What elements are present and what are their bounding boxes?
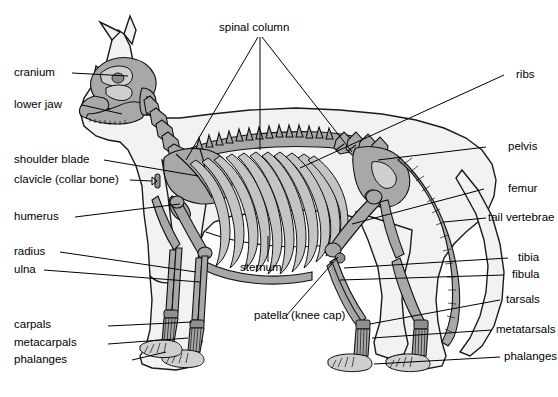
label-clavicle: clavicle (collar bone) [14, 174, 119, 186]
label-lower-jaw: lower jaw [14, 99, 62, 111]
label-metatarsals: metatarsals [496, 324, 555, 336]
skeleton-illustration [0, 0, 558, 397]
label-sternum: sternum [240, 262, 282, 274]
label-ulna: ulna [14, 264, 36, 276]
label-pelvis: pelvis [508, 141, 537, 153]
label-tibia: tibia [518, 252, 539, 264]
label-ribs: ribs [516, 69, 535, 81]
label-metacarpals: metacarpals [14, 337, 77, 349]
label-phalanges-hind: phalanges [504, 351, 557, 363]
cat-skeleton-diagram: spinal column cranium lower jaw shoulder… [0, 0, 558, 397]
label-fibula: fibula [512, 269, 540, 281]
label-radius: radius [14, 246, 45, 258]
label-cranium: cranium [14, 67, 55, 79]
label-patella: patella (knee cap) [254, 310, 345, 322]
label-humerus: humerus [14, 211, 59, 223]
label-spinal-column: spinal column [219, 22, 289, 34]
label-tail-vertebrae: tail vertebrae [488, 212, 554, 224]
label-phalanges-front: phalanges [14, 354, 67, 366]
label-femur: femur [508, 183, 537, 195]
label-tarsals: tarsals [506, 294, 540, 306]
label-carpals: carpals [14, 319, 51, 331]
label-shoulder-blade: shoulder blade [14, 154, 89, 166]
